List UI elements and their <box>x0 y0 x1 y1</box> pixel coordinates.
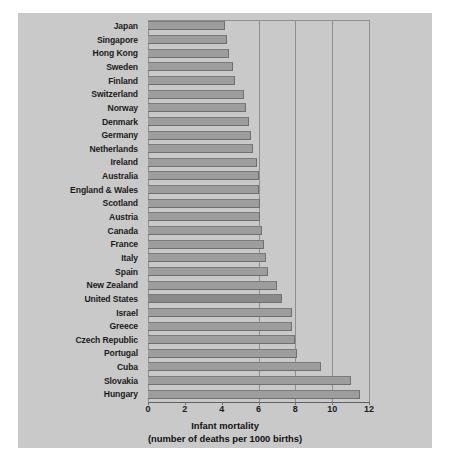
bar-row <box>148 88 369 100</box>
bar-hungary <box>148 390 360 399</box>
bar-switzerland <box>148 90 244 99</box>
bar-portugal <box>148 349 297 358</box>
bar-row <box>148 225 369 237</box>
bar-row <box>148 102 369 114</box>
bar-finland <box>148 76 235 85</box>
bar-israel <box>148 308 292 317</box>
bar-england-wales <box>148 185 259 194</box>
bar-row <box>148 375 369 387</box>
x-tick-label-10: 10 <box>327 404 337 414</box>
y-tick-label-united-states: United States <box>84 293 138 305</box>
bar-sweden <box>148 62 233 71</box>
y-tick-label-portugal: Portugal <box>104 347 138 359</box>
bar-row <box>148 361 369 373</box>
bar-canada <box>148 226 262 235</box>
bar-row <box>148 61 369 73</box>
bar-spain <box>148 267 268 276</box>
x-axis-title-line2: (number of deaths per 1000 births) <box>0 432 450 445</box>
bar-new-zealand <box>148 281 277 290</box>
x-tick-label-8: 8 <box>293 404 298 414</box>
bar-slovakia <box>148 376 351 385</box>
bar-scotland <box>148 199 260 208</box>
bar-row <box>148 197 369 209</box>
bar-italy <box>148 253 266 262</box>
y-tick-label-sweden: Sweden <box>106 61 138 73</box>
y-tick-label-denmark: Denmark <box>102 116 138 128</box>
bar-row <box>148 170 369 182</box>
y-tick-label-czech-republic: Czech Republic <box>75 334 138 346</box>
bar-france <box>148 240 264 249</box>
y-tick-label-austria: Austria <box>109 211 138 223</box>
y-tick-label-france: France <box>110 238 138 250</box>
bar-row <box>148 211 369 223</box>
bar-austria <box>148 212 260 221</box>
y-tick-label-new-zealand: New Zealand <box>87 279 138 291</box>
bar-row <box>148 116 369 128</box>
bar-row <box>148 252 369 264</box>
bar-czech-republic <box>148 335 295 344</box>
y-axis-category-labels: JapanSingaporeHong KongSwedenFinlandSwit… <box>0 20 143 402</box>
bar-row <box>148 293 369 305</box>
bar-row <box>148 143 369 155</box>
x-axis-title: Infant mortality (number of deaths per 1… <box>0 419 450 445</box>
y-tick-label-netherlands: Netherlands <box>89 143 138 155</box>
y-tick-label-singapore: Singapore <box>97 34 138 46</box>
bar-norway <box>148 103 246 112</box>
x-tick-label-6: 6 <box>256 404 261 414</box>
bar-united-states <box>148 294 282 303</box>
bar-row <box>148 238 369 250</box>
x-tick-label-0: 0 <box>145 404 150 414</box>
bar-singapore <box>148 35 227 44</box>
y-tick-label-australia: Australia <box>102 170 138 182</box>
bar-cuba <box>148 362 321 371</box>
y-tick-label-switzerland: Switzerland <box>91 88 138 100</box>
x-tick-label-12: 12 <box>364 404 374 414</box>
y-tick-label-scotland: Scotland <box>103 197 139 209</box>
bar-row <box>148 129 369 141</box>
bar-row <box>148 75 369 87</box>
y-tick-label-norway: Norway <box>108 102 138 114</box>
x-tick-label-4: 4 <box>219 404 224 414</box>
bar-row <box>148 388 369 400</box>
bar-netherlands <box>148 144 253 153</box>
x-tick-label-2: 2 <box>182 404 187 414</box>
bar-row <box>148 34 369 46</box>
y-tick-label-canada: Canada <box>108 225 138 237</box>
bar-australia <box>148 171 259 180</box>
chart-figure: JapanSingaporeHong KongSwedenFinlandSwit… <box>0 0 450 459</box>
y-tick-label-cuba: Cuba <box>117 361 138 373</box>
plot-area <box>148 20 369 402</box>
bar-row <box>148 307 369 319</box>
y-tick-label-hungary: Hungary <box>104 388 138 400</box>
bar-germany <box>148 131 251 140</box>
bar-row <box>148 334 369 346</box>
bar-row <box>148 266 369 278</box>
y-tick-label-finland: Finland <box>108 75 138 87</box>
bar-hong-kong <box>148 49 229 58</box>
y-tick-label-israel: Israel <box>116 307 138 319</box>
bar-japan <box>148 21 225 30</box>
bar-row <box>148 20 369 32</box>
y-tick-label-ireland: Ireland <box>111 156 138 168</box>
y-tick-label-italy: Italy <box>121 252 138 264</box>
bar-row <box>148 184 369 196</box>
gridline-12 <box>369 20 370 402</box>
bar-denmark <box>148 117 249 126</box>
y-tick-label-spain: Spain <box>115 266 138 278</box>
bar-row <box>148 347 369 359</box>
y-tick-label-hong-kong: Hong Kong <box>93 47 138 59</box>
y-tick-label-slovakia: Slovakia <box>104 375 138 387</box>
bar-ireland <box>148 158 257 167</box>
bar-row <box>148 320 369 332</box>
bar-row <box>148 279 369 291</box>
bar-greece <box>148 322 292 331</box>
bar-row <box>148 156 369 168</box>
y-tick-label-greece: Greece <box>109 320 138 332</box>
y-tick-label-england-wales: England & Wales <box>70 184 138 196</box>
bar-row <box>148 47 369 59</box>
x-axis-title-line1: Infant mortality <box>191 420 259 431</box>
y-tick-label-japan: Japan <box>114 20 138 32</box>
y-tick-label-germany: Germany <box>101 129 138 141</box>
